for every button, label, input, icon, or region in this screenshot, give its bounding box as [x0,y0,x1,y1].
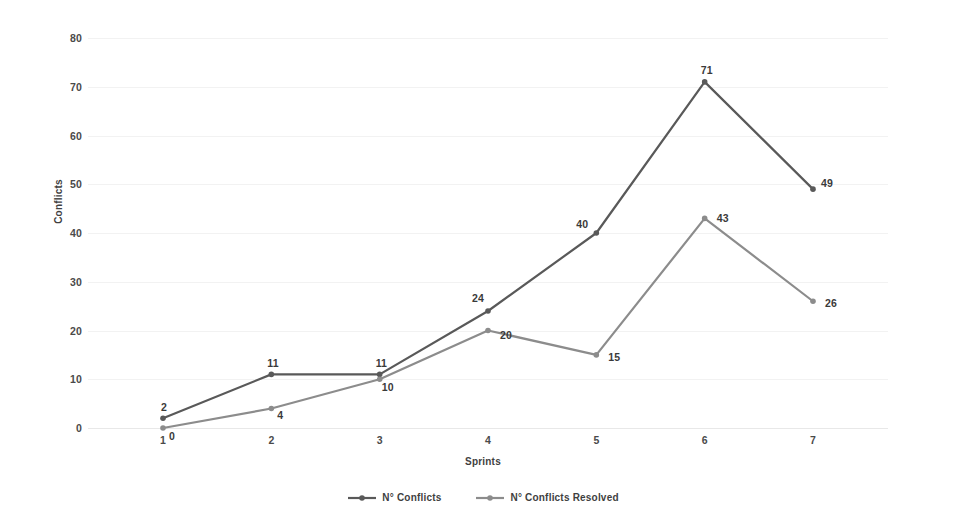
chart-legend: N° ConflictsN° Conflicts Resolved [0,492,966,503]
data-point [594,230,600,236]
x-axis-tick-labels: 1234567 [88,434,888,454]
line-chart: 01020304050607080 Conflicts 211112440714… [0,0,966,522]
data-label: 71 [701,64,713,76]
series-1 [160,79,816,421]
x-axis-tick: 3 [360,434,400,446]
data-label: 40 [576,218,588,230]
x-axis-tick: 1 [143,434,183,446]
data-point [377,372,383,378]
data-point [810,186,816,192]
y-axis-tick: 80 [48,32,82,44]
legend-label: N° Conflicts Resolved [510,492,618,503]
data-label: 4 [277,409,283,421]
data-label: 2 [161,401,167,413]
legend-label: N° Conflicts [382,492,441,503]
x-axis-tick: 4 [468,434,508,446]
legend-marker-icon [347,493,377,503]
y-axis-tick: 30 [48,276,82,288]
y-axis-tick: 20 [48,325,82,337]
data-point [160,425,166,431]
data-point [485,328,491,334]
data-point [269,406,275,412]
x-axis-tick: 6 [685,434,725,446]
data-point [810,298,816,304]
series-line [163,218,813,428]
series-lines [88,38,888,428]
data-point [485,308,491,314]
data-point [269,372,275,378]
x-axis-tick: 5 [576,434,616,446]
data-label: 10 [382,381,394,393]
y-axis-tick: 60 [48,130,82,142]
legend-item-1[interactable]: N° Conflicts [347,492,441,503]
series-line [163,82,813,418]
legend-marker-icon [475,493,505,503]
data-point [702,216,708,222]
data-point [702,79,708,85]
y-axis-tick: 70 [48,81,82,93]
y-axis-tick: 10 [48,373,82,385]
data-label: 11 [376,357,388,369]
y-axis-title: Conflicts [53,142,64,262]
data-point [594,352,600,358]
data-label: 43 [717,212,729,224]
plot-area: 2111124407149041020154326 [88,38,888,428]
legend-item-2[interactable]: N° Conflicts Resolved [475,492,618,503]
data-label: 20 [500,329,512,341]
series-2 [160,216,816,431]
x-axis-title: Sprints [0,456,966,467]
x-axis-tick: 7 [793,434,833,446]
data-label: 26 [825,297,837,309]
data-label: 11 [267,357,279,369]
data-label: 15 [608,351,620,363]
data-label: 49 [821,177,833,189]
data-point [160,415,166,421]
data-label: 24 [472,292,484,304]
axis-baseline [88,428,888,429]
x-axis-tick: 2 [251,434,291,446]
y-axis-tick: 0 [48,422,82,434]
